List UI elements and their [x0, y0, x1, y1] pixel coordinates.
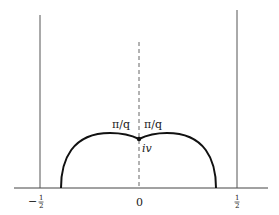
cusp-point-label: iv	[142, 142, 153, 155]
angle-label-right: π/q	[144, 118, 162, 131]
cusp-point-marker	[137, 137, 141, 141]
tick-label-neg-half-sign: −	[28, 195, 37, 208]
left-arc	[61, 133, 139, 188]
angle-label-left: π/q	[112, 118, 130, 131]
diagram-canvas: π/q π/q iv − 1 2 0 1 2	[0, 0, 279, 215]
tick-label-neg-half-num: 1	[39, 194, 43, 202]
tick-label-neg-half-den: 2	[39, 202, 43, 210]
diagram-svg: π/q π/q iv − 1 2 0 1 2	[0, 0, 279, 215]
tick-label-pos-half-num: 1	[235, 194, 239, 202]
tick-label-zero: 0	[136, 196, 143, 209]
tick-label-pos-half-den: 2	[235, 202, 239, 210]
